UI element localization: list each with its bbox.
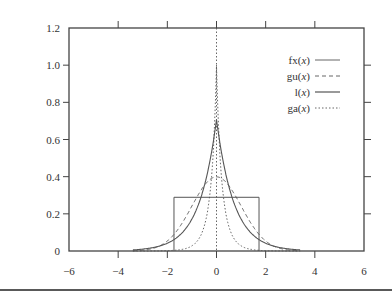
curve-l (133, 120, 300, 250)
x-tick-label: −2 (161, 265, 173, 277)
y-tick-label: 0.4 (46, 171, 60, 183)
density-chart: −6−4−2024600.20.40.60.81.01.2 fx(x)gu(x)… (0, 0, 392, 297)
y-tick-label: 0 (55, 245, 61, 257)
x-tick-label: −6 (63, 265, 75, 277)
axis-ticks: −6−4−2024600.20.40.60.81.01.2 (46, 21, 371, 277)
legend-label: ga(x) (287, 102, 310, 115)
y-tick-label: 1.2 (46, 22, 60, 34)
legend: fx(x)gu(x)l(x)ga(x) (287, 54, 340, 115)
legend-label: gu(x) (287, 70, 311, 83)
legend-label: l(x) (295, 86, 311, 99)
x-tick-label: 6 (361, 265, 367, 277)
y-tick-label: 0.8 (46, 96, 60, 108)
x-tick-label: −4 (112, 265, 124, 277)
x-tick-label: 2 (263, 265, 269, 277)
x-tick-label: 0 (214, 265, 220, 277)
x-tick-label: 4 (312, 265, 318, 277)
y-tick-label: 0.2 (46, 208, 60, 220)
y-tick-label: 0.6 (46, 134, 60, 146)
y-tick-label: 1.0 (46, 59, 60, 71)
curves (133, 28, 300, 251)
legend-label: fx(x) (289, 54, 311, 67)
